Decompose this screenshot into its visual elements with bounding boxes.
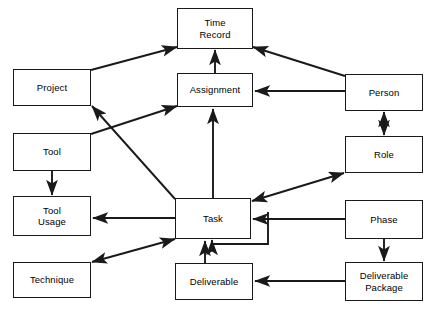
entity-box-deliverable-package[interactable]: Deliverable Package xyxy=(345,262,423,301)
entity-label: Phase xyxy=(368,214,399,226)
entity-box-phase[interactable]: Phase xyxy=(345,200,423,239)
entity-box-time-record[interactable]: Time Record xyxy=(177,8,253,49)
entity-box-project[interactable]: Project xyxy=(13,69,91,106)
entity-label: Tool xyxy=(41,146,63,158)
edge-task-technique-association xyxy=(92,239,175,262)
edge-person-to-time-record xyxy=(253,47,345,76)
entity-box-deliverable[interactable]: Deliverable xyxy=(175,263,253,300)
entity-label: Role xyxy=(372,149,396,161)
entity-label: Task xyxy=(201,213,225,225)
entity-box-tool-usage[interactable]: Tool Usage xyxy=(13,196,91,236)
edge-project-to-time-record xyxy=(91,47,177,70)
entity-label: Tool Usage xyxy=(36,205,68,228)
entity-box-role[interactable]: Role xyxy=(345,136,423,173)
entity-label: Person xyxy=(367,87,402,99)
entity-label: Time Record xyxy=(197,17,232,40)
entity-label: Deliverable xyxy=(188,276,241,288)
entity-box-technique[interactable]: Technique xyxy=(13,262,91,298)
entity-box-tool[interactable]: Tool xyxy=(13,133,91,171)
entity-box-person[interactable]: Person xyxy=(345,74,423,111)
entity-box-task[interactable]: Task xyxy=(175,198,251,239)
entity-relationship-diagram: Time RecordProjectAssignmentPersonToolRo… xyxy=(0,0,431,315)
entity-label: Assignment xyxy=(188,84,243,96)
edge-task-role-association xyxy=(252,173,344,201)
entity-label: Project xyxy=(35,82,69,94)
entity-box-assignment[interactable]: Assignment xyxy=(177,73,253,107)
entity-label: Technique xyxy=(28,274,76,286)
entity-label: Deliverable Package xyxy=(358,270,411,293)
